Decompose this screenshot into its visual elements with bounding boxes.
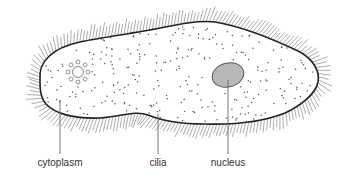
label-cytoplasm: cytoplasm [37, 157, 82, 168]
label-nucleus: nucleus [211, 157, 245, 168]
paramecium-diagram: cytoplasm cilia nucleus [0, 0, 353, 178]
label-cilia: cilia [149, 157, 167, 168]
